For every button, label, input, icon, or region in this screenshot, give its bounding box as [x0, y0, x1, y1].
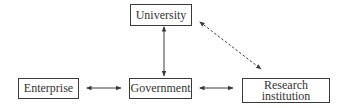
triple-helix-diagram: University Enterprise Government Researc…: [0, 0, 343, 108]
node-enterprise: Enterprise: [18, 78, 79, 99]
edge-university-research-dashed: [200, 22, 261, 69]
node-research-institution: Research institution: [242, 78, 330, 103]
node-research-label-line2: institution: [262, 91, 311, 102]
node-university: University: [130, 4, 192, 26]
node-enterprise-label: Enterprise: [24, 83, 73, 94]
node-government: Government: [129, 78, 192, 99]
node-university-label: University: [136, 10, 187, 21]
node-government-label: Government: [131, 83, 191, 94]
